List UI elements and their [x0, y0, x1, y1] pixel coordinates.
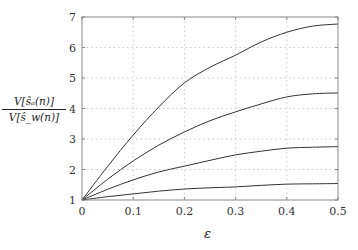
series-line-curve-3 — [82, 147, 338, 200]
data-series — [82, 24, 338, 200]
y-tick-label: 5 — [69, 72, 76, 85]
y-axis-label-denominator: V[ŝ_w(n)] — [2, 110, 66, 124]
tick-labels: 00.10.20.30.40.51234567 — [69, 11, 347, 218]
y-axis-label: V[ŝₐ(n)] V[ŝ_w(n)] — [2, 95, 66, 124]
y-tick-label: 2 — [69, 164, 76, 177]
line-chart: 00.10.20.30.40.51234567 — [0, 0, 358, 250]
y-tick-label: 7 — [69, 11, 76, 24]
y-axis-label-numerator: V[ŝₐ(n)] — [2, 95, 66, 110]
y-tick-label: 4 — [69, 103, 76, 116]
y-tick-label: 1 — [69, 194, 76, 207]
x-tick-label: 0.2 — [176, 205, 194, 218]
y-tick-label: 6 — [69, 42, 76, 55]
plot-frame — [82, 17, 338, 200]
x-tick-label: 0.4 — [278, 205, 296, 218]
y-tick-label: 3 — [69, 133, 76, 146]
x-axis-label: ε — [204, 226, 211, 241]
series-line-curve-1 — [82, 24, 338, 200]
series-line-curve-4 — [82, 184, 338, 200]
x-tick-label: 0.1 — [124, 205, 142, 218]
grid-lines — [82, 17, 338, 200]
x-tick-label: 0.3 — [227, 205, 245, 218]
x-tick-label: 0.5 — [329, 205, 347, 218]
x-tick-label: 0 — [79, 205, 86, 218]
